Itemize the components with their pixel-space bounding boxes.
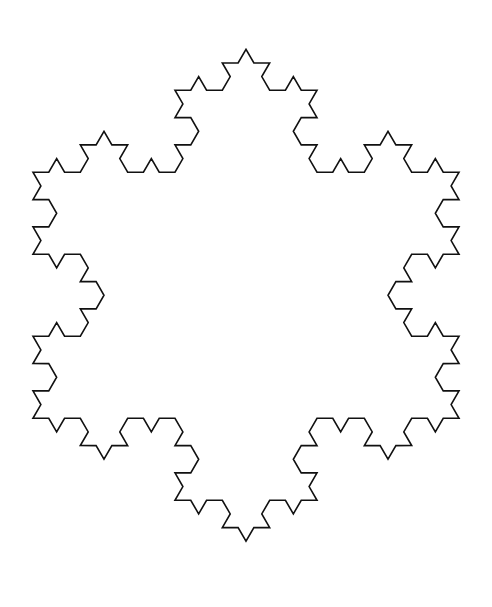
koch-snowflake-path (33, 49, 459, 541)
koch-snowflake-figure: Koch Snowflake (0, 0, 492, 607)
figure-canvas: Koch Snowflake (0, 0, 492, 607)
